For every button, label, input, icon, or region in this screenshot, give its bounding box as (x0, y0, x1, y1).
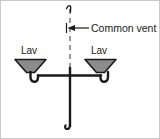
leader-arrowhead-icon (68, 25, 76, 31)
vent-top-break-icon (67, 6, 71, 12)
left-lavatory-fixture-icon (15, 60, 46, 73)
common-vent-label: Common vent (91, 22, 156, 34)
right-lav-label: Lav (91, 45, 107, 56)
diagram-canvas: Common vent Lav Lav (1, 1, 160, 139)
right-p-trap (101, 72, 109, 82)
drain-bottom-break-icon (65, 125, 70, 129)
left-p-trap (31, 72, 39, 82)
right-lavatory-fixture-icon (85, 60, 116, 73)
left-lav-label: Lav (21, 45, 37, 56)
plumbing-diagram: Common vent Lav Lav (0, 0, 160, 139)
